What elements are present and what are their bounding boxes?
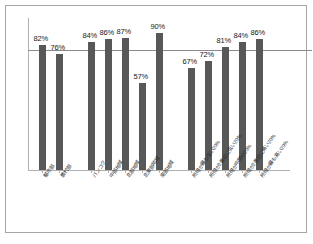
bar [56,54,63,170]
bar [39,45,46,170]
bar [188,68,195,170]
bar-value-label: 87% [117,27,131,36]
bar-value-label: 86% [251,28,265,37]
bar-value-label: 82% [34,34,48,43]
bar-value-label: 86% [100,28,114,37]
bar-value-label: 84% [234,31,248,40]
bar-value-label: 57% [134,72,148,81]
chart-frame: 82%76%84%86%87%57%90%67%72%81%84%86% 都市部… [5,5,307,233]
bar [88,42,95,170]
bar-value-label: 84% [83,31,97,40]
chart-screenshot: 82%76%84%86%87%57%90%67%72%81%84%86% 都市部… [0,0,313,244]
bar [105,39,112,170]
national-average-reference-line [28,50,312,51]
bar-value-label: 67% [183,57,197,66]
y-axis-line [28,18,29,170]
plot-area: 82%76%84%86%87%57%90%67%72%81%84%86% 都市部… [28,18,290,170]
bar-value-label: 72% [200,50,214,59]
bar [156,33,163,170]
bar-value-label: 90% [151,22,165,31]
bar-value-label: 81% [217,36,231,45]
bar [122,38,129,170]
bar-value-label: 76% [51,43,65,52]
bar [139,83,146,170]
